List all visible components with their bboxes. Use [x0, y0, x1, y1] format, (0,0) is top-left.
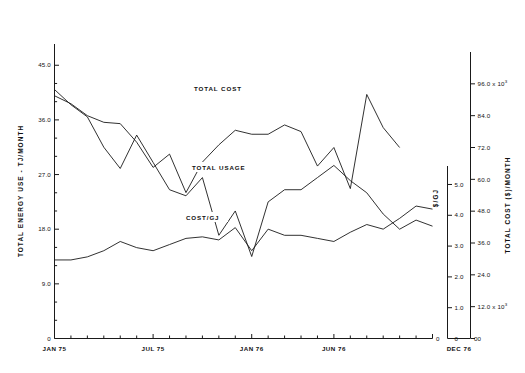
- left-tick-label: 45.0: [38, 61, 51, 68]
- right-inner-tick-label: 0: [455, 335, 459, 342]
- x-tick-label: JUN 76: [322, 345, 346, 352]
- energy-chart: 09.018.027.036.045.0 TOTAL ENERGY USE - …: [0, 0, 525, 373]
- x-tick-label: DEC 76: [447, 345, 472, 352]
- right-outer-tick-label: 0: [478, 335, 482, 342]
- left-axis-title: TOTAL ENERGY USE - TJ/MONTH: [17, 125, 24, 257]
- right-outer-tick-label: 24.0: [478, 271, 491, 278]
- right-inner-tick-label: 2.0: [455, 273, 465, 280]
- zero-marker-inner: 0: [436, 335, 440, 342]
- series-group: [55, 90, 433, 260]
- right-outer-tick-label: 72.0: [478, 144, 491, 151]
- right-outer-axis: 012.0 x 10324.036.048.060.072.084.096.0 …: [471, 52, 513, 342]
- series-annotations: TOTAL COST TOTAL USAGE COST/GJ: [184, 83, 256, 222]
- left-axis: 09.018.027.036.045.0 TOTAL ENERGY USE - …: [17, 44, 59, 342]
- x-tick-label: JAN 75: [43, 345, 67, 352]
- right-outer-tick-label: 96.0 x 103: [478, 79, 508, 87]
- label-total-cost: TOTAL COST: [194, 85, 242, 92]
- left-tick-label: 36.0: [38, 116, 51, 123]
- right-outer-axis-title: TOTAL COST ($)/MONTH: [504, 157, 512, 254]
- right-inner-tick-label: 1.0: [455, 304, 465, 311]
- right-inner-tick-label: 3.0: [455, 242, 465, 249]
- left-tick-label: 9.0: [42, 280, 52, 287]
- right-outer-tick-label: 36.0: [478, 239, 491, 246]
- right-inner-tick-label: 4.0: [455, 211, 465, 218]
- right-inner-axis-title: $/GJ: [432, 189, 440, 207]
- right-outer-tick-label: 84.0: [478, 112, 491, 119]
- label-cost-per-gj: COST/GJ: [186, 214, 219, 221]
- x-axis: JAN 75JUL 75JAN 76JUN 76DEC 7600: [43, 334, 478, 352]
- right-outer-tick-label: 60.0: [478, 176, 491, 183]
- left-tick-label: 18.0: [38, 225, 51, 232]
- right-inner-tick-label: 5.0: [455, 181, 465, 188]
- x-tick-label: JAN 76: [240, 345, 264, 352]
- x-tick-label: JUL 75: [142, 345, 165, 352]
- series-total-usage: [55, 90, 433, 257]
- right-outer-tick-label: 48.0: [478, 207, 491, 214]
- label-total-usage: TOTAL USAGE: [192, 164, 246, 171]
- right-outer-tick-label: 12.0 x 103: [478, 302, 508, 310]
- chart-svg: 09.018.027.036.045.0 TOTAL ENERGY USE - …: [0, 0, 525, 373]
- left-tick-label: 0: [47, 335, 51, 342]
- right-inner-axis: 01.02.03.04.05.0 $/GJ: [432, 166, 464, 342]
- left-tick-label: 27.0: [38, 171, 51, 178]
